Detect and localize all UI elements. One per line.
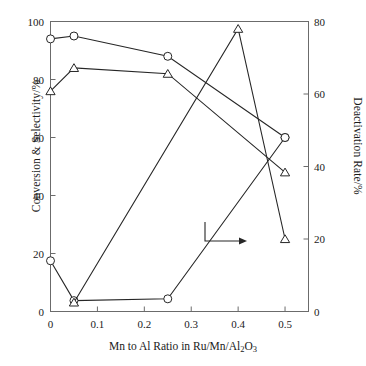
data-point-circle [281,134,289,142]
y-tick-label-left: 20 [8,248,44,259]
data-point-circle [70,32,78,40]
data-point-triangle [234,25,243,33]
y-tick-label-left: 80 [8,74,44,85]
series-3 [69,25,289,306]
x-tick-label: 0.1 [91,319,105,330]
series-2 [47,134,290,305]
x-tick-label: 0 [48,319,54,330]
x-tick-label: 0.2 [137,319,151,330]
y-tick-label-right: 40 [314,161,350,172]
data-point-circle [164,295,172,303]
y-tick-label-left: 40 [8,190,44,201]
x-tick-label: 0.5 [278,319,292,330]
data-point-triangle [280,235,289,243]
series-0 [47,32,290,142]
data-point-circle [47,257,55,265]
y-tick-label-left: 60 [8,132,44,143]
chart-figure: Conversion & Selectivity/% Deactivation … [0,0,366,366]
data-series-group [46,25,290,306]
y-tick-label-right: 20 [314,234,350,245]
y-tick-label-left: 100 [8,16,44,27]
y-tick-label-right: 0 [314,306,350,317]
y-tick-label-right: 80 [314,16,350,27]
x-tick-label: 0.4 [231,319,245,330]
data-point-circle [47,35,55,43]
plot-area [0,0,366,366]
right-axis-arrow-annotation [205,222,247,244]
y-tick-label-right: 60 [314,89,350,100]
y-tick-label-left: 0 [8,306,44,317]
x-tick-label: 0.3 [184,319,198,330]
series-1 [46,64,290,176]
data-point-circle [164,52,172,60]
